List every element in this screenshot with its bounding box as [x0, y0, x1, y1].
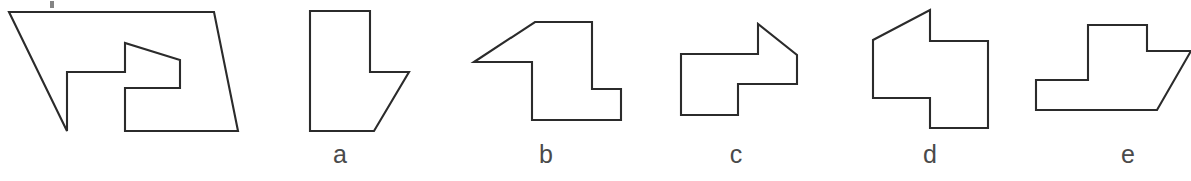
shapes-illustration: [0, 0, 1191, 181]
parallelogram-with-arrow-cutout: [9, 12, 238, 131]
option-e-group[interactable]: [1036, 25, 1191, 110]
option-d-label: d: [910, 142, 950, 167]
option-b-group[interactable]: [474, 22, 621, 120]
option-c-shape[interactable]: [681, 24, 797, 115]
option-a-shape[interactable]: [310, 11, 409, 131]
figure-canvas: a b c d e: [0, 0, 1191, 181]
option-a-label: a: [320, 142, 360, 167]
prompt-figure-group: [9, 12, 238, 131]
option-e-shape[interactable]: [1036, 25, 1191, 110]
option-c-group[interactable]: [681, 24, 797, 115]
top-speck-mark: [50, 1, 54, 8]
option-a-group[interactable]: [310, 11, 409, 131]
option-e-label: e: [1108, 142, 1148, 167]
option-d-shape[interactable]: [873, 10, 988, 128]
option-b-label: b: [526, 142, 566, 167]
option-d-group[interactable]: [873, 10, 988, 128]
option-c-label: c: [716, 142, 756, 167]
option-b-shape[interactable]: [474, 22, 621, 120]
